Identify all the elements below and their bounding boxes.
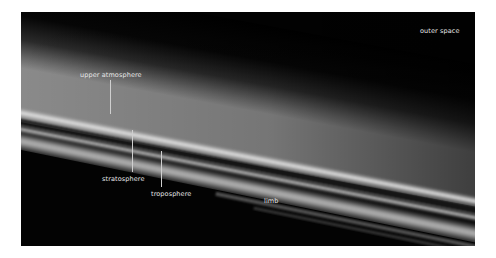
leader-line-stratosphere [132,130,133,172]
label-upper-atmosphere: upper atmosphere [80,72,142,79]
label-stratosphere: stratosphere [102,176,144,183]
label-troposphere: troposphere [151,191,191,198]
label-outer-space: outer space [420,28,460,35]
earth-limb-photo: outer space upper atmosphere stratospher… [21,12,475,246]
leader-line-troposphere [161,151,162,187]
leader-line-upper-atmosphere [110,80,111,114]
atmosphere-layers-graphic [21,12,475,246]
label-limb: limb [264,198,278,205]
